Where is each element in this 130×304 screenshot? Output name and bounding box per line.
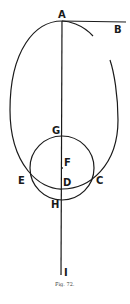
center-point-f (61, 167, 63, 169)
label-f: F (64, 157, 71, 168)
figure-caption: Fig. 72. (55, 281, 75, 288)
label-h: H (51, 199, 59, 210)
label-d: D (63, 177, 71, 188)
label-g: G (52, 125, 60, 136)
label-i: I (64, 267, 68, 278)
label-a: A (58, 9, 66, 20)
geometry-figure: A B G F E D C H I Fig. 72. (0, 0, 130, 304)
tangent-line-ab (62, 21, 126, 22)
label-e: E (18, 175, 25, 186)
label-c: C (96, 175, 103, 186)
label-b: B (114, 24, 122, 35)
axis-line-ai (61, 21, 62, 275)
